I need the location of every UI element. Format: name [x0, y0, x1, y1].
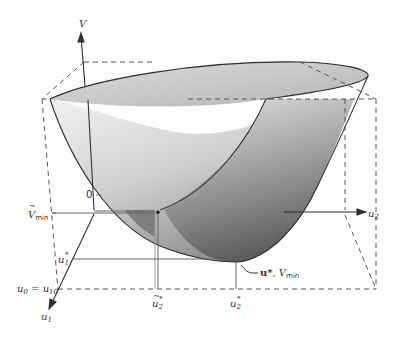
svg-text:~: ~ [29, 202, 36, 211]
v-min-tilde-label: Vmin ~ [28, 202, 48, 222]
u1-axis-arrowhead [49, 299, 56, 309]
optimum-leader [241, 265, 258, 273]
u1-star-label: u1* [58, 251, 69, 267]
axis-label-u1: u1 [41, 311, 52, 324]
u2-star-label: u2* [230, 295, 241, 311]
u2-axis-arrowhead [357, 209, 366, 215]
axis-label-v: V [79, 18, 88, 29]
paraboloid-diagram: V u2 u1 0 Vmin ~ u1* u0 = u10 u2* ~ u2* … [0, 0, 418, 342]
axis-label-u2: u2 [368, 208, 379, 221]
svg-text:~: ~ [153, 292, 160, 301]
min-point-marker [156, 210, 159, 213]
v-axis-arrowhead [78, 33, 84, 42]
zero-tick-label: 0 [86, 189, 92, 200]
u2-tilde-star-label: u2* ~ [152, 292, 163, 311]
u0-equals-u10-label: u0 = u10 [17, 283, 59, 296]
optimum-label: u*, Vmin [260, 267, 299, 280]
